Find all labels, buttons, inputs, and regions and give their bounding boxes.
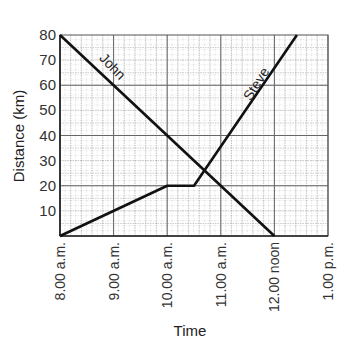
x-tick-label: 9.00 a.m. [106,242,122,300]
distance-time-chart: JohnSteve10203040506070808.00 a.m.9.00 a… [0,0,346,361]
y-tick-label: 30 [39,152,56,169]
x-tick-label: 8.00 a.m. [52,242,68,300]
y-tick-label: 10 [39,202,56,219]
y-tick-label: 80 [39,26,56,43]
x-axis-title: Time [174,322,207,339]
x-tick-label: 11.00 a.m. [213,242,229,307]
x-tick-label: 1.00 p.m. [320,242,336,300]
x-tick-label: 10.00 a.m. [159,242,175,308]
y-tick-label: 50 [39,101,56,118]
y-tick-label: 20 [39,177,56,194]
y-tick-label: 70 [39,51,56,68]
y-tick-label: 40 [39,127,56,144]
plot-area: JohnSteve10203040506070808.00 a.m.9.00 a… [39,26,336,312]
y-axis-title: Distance (km) [10,90,27,183]
x-tick-label: 12.00 noon [266,242,282,312]
y-tick-label: 60 [39,76,56,93]
